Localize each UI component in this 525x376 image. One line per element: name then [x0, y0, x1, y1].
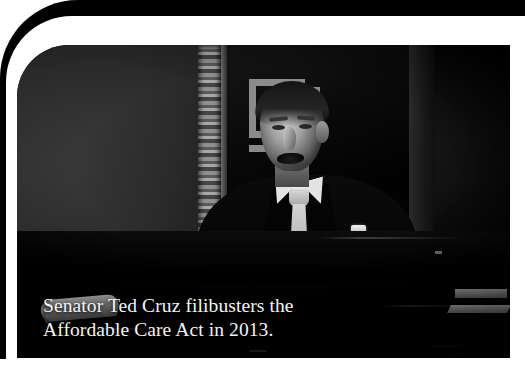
desk-edge-highlight	[412, 345, 507, 347]
eye-right	[299, 124, 312, 129]
necktie-knot	[289, 189, 309, 206]
hair	[255, 81, 329, 127]
figure-frame: Senator Ted Cruz filibusters the Afforda…	[0, 0, 525, 376]
desk-edge-highlight	[317, 237, 467, 239]
chin-shadow	[269, 159, 315, 175]
caption-line-2: Affordable Care Act in 2013.	[43, 318, 473, 342]
eye-left	[272, 125, 285, 130]
nose	[283, 127, 296, 151]
photo-caption: Senator Ted Cruz filibusters the Afforda…	[43, 294, 473, 342]
desk-glint	[435, 251, 442, 254]
desk-edge-highlight	[427, 355, 507, 357]
ear	[316, 121, 329, 143]
photograph: Senator Ted Cruz filibusters the Afforda…	[17, 45, 510, 358]
right-pilaster-shadow	[409, 45, 435, 235]
caption-line-1: Senator Ted Cruz filibusters the	[43, 294, 473, 318]
desk-glint	[249, 350, 267, 352]
stone-wall-left	[17, 45, 199, 250]
